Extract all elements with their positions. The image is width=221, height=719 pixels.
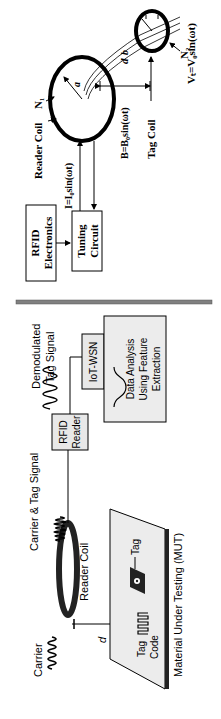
demodulated-label-2: Tag Signal [44,332,56,383]
carrier-tag-signal-label: Carrier & Tag Signal [28,453,40,551]
svg-text:Reader: Reader [71,415,82,448]
svg-text:RFID: RFID [29,230,41,257]
distance-d-label-right: d [118,58,130,64]
carrier-label: Carrier [32,643,44,677]
svg-text:Extraction: Extraction [151,347,162,391]
current-equation: I=I₀sin(ωt) [63,163,75,209]
demodulated-label-1: Demodulated [30,324,42,389]
magnetic-field-lines [84,17,180,99]
panel-divider [16,300,212,304]
svg-text:Circuit: Circuit [88,224,100,258]
carrier-wave-icon [48,637,56,669]
svg-text:Electronics: Electronics [42,216,54,269]
reader-coil-label: Reader Coil [78,543,90,601]
svg-text:IoT-WSN: IoT-WSN [88,342,99,383]
voltage-equation: Vₜ=V₀sin(ωt) [185,23,198,84]
tag-label: Tag [130,539,141,555]
tag-code-label-2: Code [149,635,160,659]
data-analysis-box: Data Analysis Using Feature Extraction [104,316,166,422]
tag-coil-label: Tag Coil [145,119,157,159]
svg-text:RFID: RFID [58,420,69,443]
figure-canvas: Carrier Reader Coil d Carrier & Tag Sign… [0,0,221,719]
radius-b-label: b [119,50,130,55]
radius-a-label: a [71,82,82,87]
mut-label: Material Under Testing (MUT) [172,533,184,677]
tuning-circuit-box: Tuning Circuit [72,211,102,271]
svg-text:Using Feature: Using Feature [138,337,149,400]
iot-wsn-box: IoT-WSN [82,334,104,389]
svg-text:Data Analysis: Data Analysis [125,339,136,400]
radius-a-arrow [64,77,82,99]
svg-text:Tuning: Tuning [75,224,87,258]
rfid-diagram: Carrier Reader Coil d Carrier & Tag Sign… [0,0,221,719]
rfid-reader-box: RFID Reader [52,414,88,450]
distance-d-label: d [96,636,108,643]
tag-capacitor-icon [146,15,158,19]
radius-b-arrow [142,19,152,31]
carrier-tag-wave-icon [54,517,66,541]
distance-d-marker-right [100,81,150,91]
mut-panel [110,509,169,689]
rfid-electronics-box: RFID Electronics [26,205,56,281]
n1-label: N₁ [32,98,44,109]
reader-to-iot-line [70,357,82,414]
reader-coil-label-right: Reader Coil [32,123,44,179]
tag-code-label-1: Tag [136,641,147,657]
field-equation: B=B₀sin(ωt) [119,107,131,159]
